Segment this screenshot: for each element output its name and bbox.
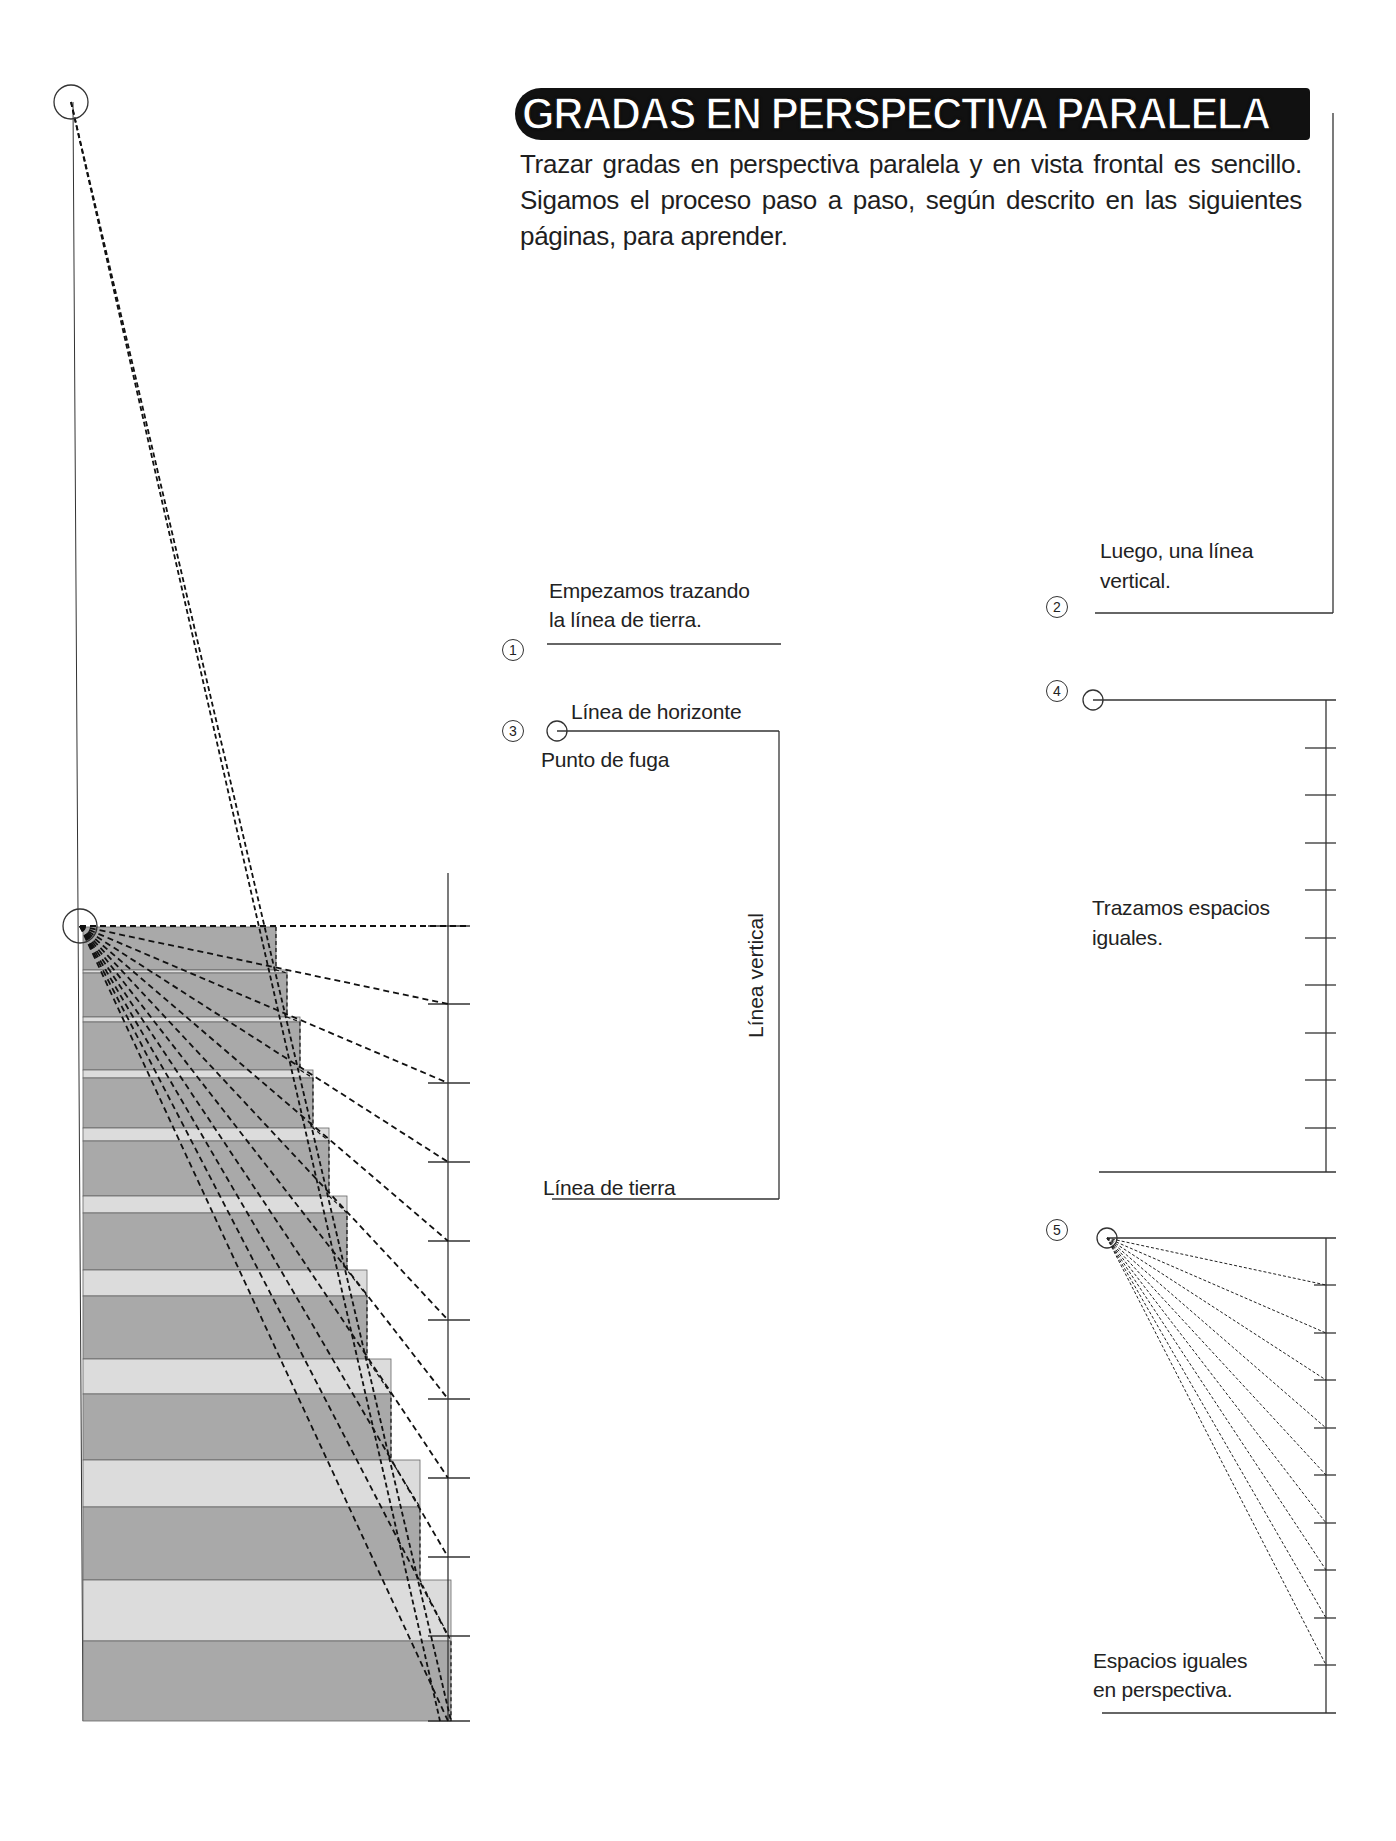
step2-label-line2: vertical. xyxy=(1100,566,1171,595)
step2-number-badge: 2 xyxy=(1046,596,1068,618)
stair-riser xyxy=(83,973,287,1017)
stair-riser xyxy=(83,1507,420,1580)
stair-tread xyxy=(83,1128,329,1141)
stair-riser xyxy=(83,1296,367,1359)
step5-ray xyxy=(1107,1238,1326,1665)
step3-number-badge: 3 xyxy=(502,720,524,742)
step5-ray xyxy=(1107,1238,1326,1428)
intro-paragraph: Trazar gradas en perspectiva paralela y … xyxy=(520,146,1302,254)
step5-ray xyxy=(1107,1238,1326,1380)
step5-label-line2: en perspectiva. xyxy=(1093,1675,1232,1704)
step5-ray xyxy=(1107,1238,1326,1570)
stair-tread xyxy=(83,1196,347,1213)
step2-label-line1: Luego, una línea xyxy=(1100,536,1253,565)
step5-ray xyxy=(1107,1238,1326,1285)
step5-perspective-rays xyxy=(1107,1238,1326,1665)
step1-label-line2: la línea de tierra. xyxy=(549,605,702,634)
step5-label-line1: Espacios iguales xyxy=(1093,1646,1247,1675)
stair-tread xyxy=(83,1017,300,1022)
step5-number-badge: 5 xyxy=(1046,1219,1068,1241)
stair-tread xyxy=(83,1359,391,1394)
step4-number-badge: 4 xyxy=(1046,680,1068,702)
stair-riser xyxy=(83,1394,391,1460)
step1-label-line1: Empezamos trazando xyxy=(549,576,750,605)
staircase-drawing xyxy=(54,85,470,1721)
step5-ray xyxy=(1107,1238,1326,1523)
page-title: GRADAS EN PERSPECTIVA PARALELA xyxy=(522,86,1252,142)
step1-number-badge: 1 xyxy=(502,639,524,661)
left-vertical-guide xyxy=(73,102,83,1721)
step5-ray xyxy=(1107,1238,1326,1475)
stair-riser xyxy=(83,1641,451,1721)
step3-vertical-label: Línea vertical xyxy=(744,913,768,1038)
step5-tick-marks xyxy=(1314,1285,1336,1665)
step3-horizon-label: Línea de horizonte xyxy=(571,697,741,726)
step5-ray xyxy=(1107,1238,1326,1618)
step4-label-line2: iguales. xyxy=(1092,923,1163,952)
step4-tick-marks xyxy=(1305,748,1336,1128)
step3-vanishing-point-label: Punto de fuga xyxy=(541,745,669,774)
stair-tread xyxy=(83,1580,451,1641)
step4-label-line1: Trazamos espacios xyxy=(1092,893,1270,922)
step5-ray xyxy=(1107,1238,1326,1333)
stair-tread xyxy=(83,1460,420,1507)
step3-ground-label: Línea de tierra xyxy=(543,1173,675,1202)
stair-riser xyxy=(83,1213,347,1270)
